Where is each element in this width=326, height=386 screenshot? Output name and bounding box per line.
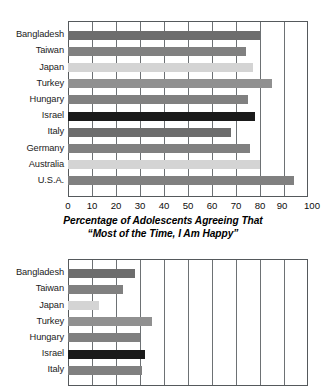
x-tick-60: 60 — [207, 199, 218, 213]
category-label: Japan — [39, 301, 64, 310]
gridline-40 — [164, 260, 165, 385]
x-tick-30: 30 — [135, 199, 146, 213]
axis-title-line-2: “Most of the Time, I Am Happy” — [0, 228, 326, 241]
category-label: Bangladesh — [16, 268, 64, 277]
x-tick-100: 100 — [304, 199, 320, 213]
category-label: Israel — [42, 349, 64, 358]
bar — [68, 317, 152, 326]
category-label: Bangladesh — [16, 30, 64, 39]
gridline-60 — [212, 260, 213, 385]
gridline-50 — [188, 260, 189, 385]
gridline-80 — [260, 22, 261, 196]
bar — [68, 47, 246, 56]
category-label: Turkey — [37, 317, 64, 326]
gridline-90 — [284, 260, 285, 385]
x-tick-20: 20 — [111, 199, 122, 213]
category-label: Italy — [47, 365, 64, 374]
category-label: U.S.A. — [38, 176, 64, 185]
top-plot-area: BangladeshTaiwanJapanTurkeyHungaryIsrael… — [0, 21, 326, 197]
axis-title-line-1: Percentage of Adolescents Agreeing That — [0, 215, 326, 228]
top-x-axis-ticks: 0102030405060708090100 — [0, 199, 326, 213]
category-label: Japan — [39, 63, 64, 72]
bar — [68, 269, 135, 278]
bar — [68, 176, 294, 185]
category-label: Turkey — [37, 79, 64, 88]
category-label: Israel — [42, 111, 64, 120]
bar — [68, 112, 255, 121]
x-tick-90: 90 — [277, 199, 288, 213]
x-tick-0: 0 — [65, 199, 70, 213]
x-tick-40: 40 — [159, 199, 170, 213]
bar — [68, 366, 142, 375]
bar — [68, 128, 231, 137]
category-label: Australia — [29, 160, 64, 169]
bar — [68, 63, 253, 72]
bar — [68, 160, 260, 169]
gridline-70 — [236, 260, 237, 385]
bar — [68, 350, 145, 359]
bar — [68, 301, 99, 310]
bar — [68, 333, 140, 342]
category-label: Italy — [47, 127, 64, 136]
category-label: Taiwan — [36, 46, 64, 55]
bar — [68, 31, 260, 40]
category-label: Taiwan — [36, 284, 64, 293]
category-label: Hungary — [30, 333, 64, 342]
x-tick-10: 10 — [87, 199, 98, 213]
x-tick-70: 70 — [231, 199, 242, 213]
bottom-plot-area: BangladeshTaiwanJapanTurkeyHungaryIsrael… — [0, 259, 326, 386]
x-tick-50: 50 — [183, 199, 194, 213]
x-tick-80: 80 — [255, 199, 266, 213]
axis-title: Percentage of Adolescents Agreeing That … — [0, 215, 326, 240]
bar — [68, 79, 272, 88]
gridline-90 — [284, 22, 285, 196]
category-label: Germany — [26, 144, 64, 153]
gridline-80 — [260, 260, 261, 385]
category-label: Hungary — [30, 95, 64, 104]
bar — [68, 144, 250, 153]
bar — [68, 285, 123, 294]
bar — [68, 95, 248, 104]
